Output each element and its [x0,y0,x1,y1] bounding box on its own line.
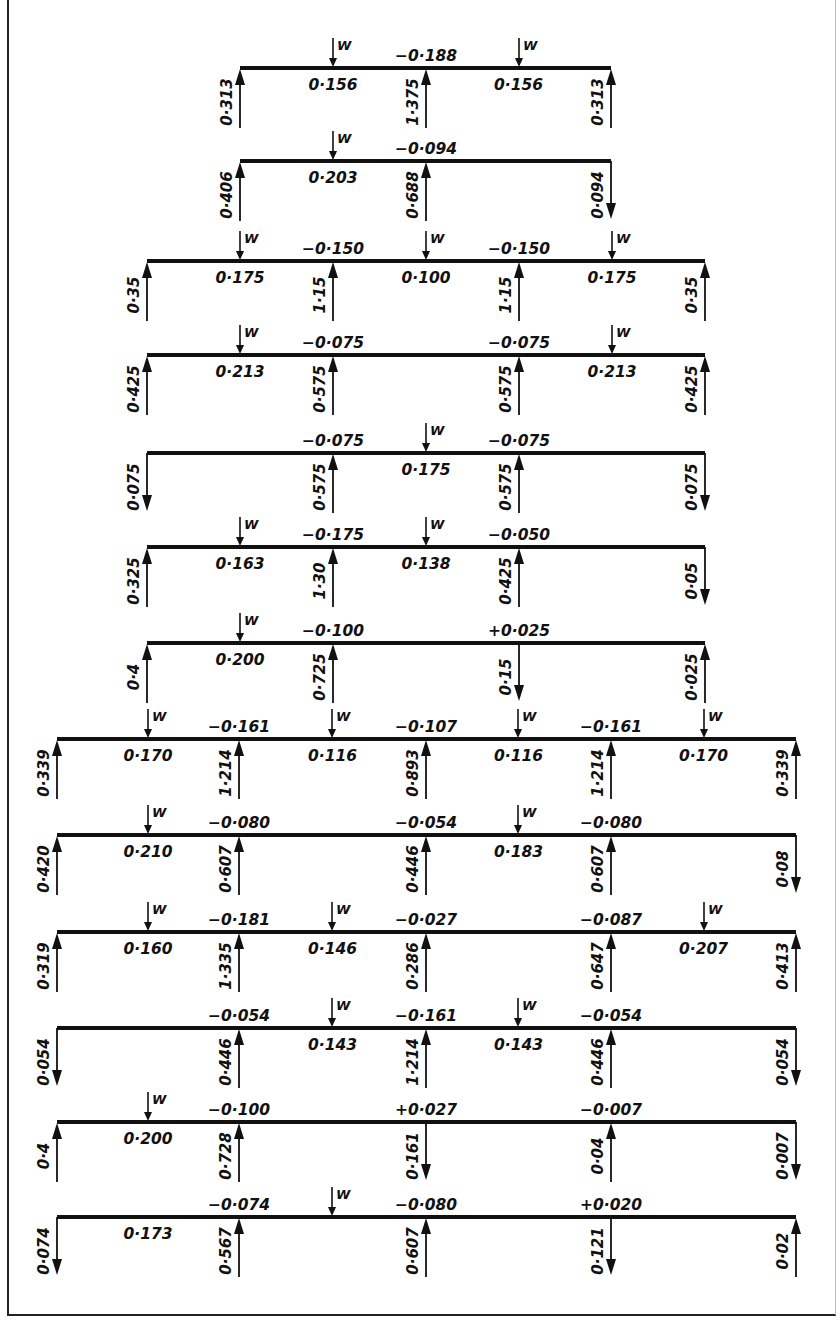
beam-case: WWW−0·150−0·1500·1750·1000·1750·351·151·… [125,231,710,321]
reaction-label: 0·35 [125,276,143,313]
reaction-label: 0·446 [404,845,422,892]
span-moment-label: 0·210 [123,843,172,861]
load-arrow-icon: W [328,998,351,1027]
load-arrow-icon: W [236,517,259,546]
load-arrow-icon: W [515,38,538,67]
reaction-up-arrow-icon: 1·15 [497,262,524,321]
reaction-down-arrow-icon: 0·075 [683,453,710,511]
reaction-label: 0·607 [404,1227,422,1275]
load-label: W [152,709,167,724]
support-moment-label: −0·050 [488,526,550,544]
support-moment-label: −0·080 [208,814,270,832]
reaction-up-arrow-icon: 0·425 [497,548,524,607]
reaction-up-arrow-icon: 1·214 [217,740,244,799]
span-moment-label: 0·175 [215,269,264,287]
support-moment-label: −0·100 [208,1101,270,1119]
load-label: W [244,231,259,246]
reaction-up-arrow-icon: 1·30 [311,548,338,607]
reaction-up-arrow-icon: 0·420 [35,836,62,895]
span-moment-label: 0·183 [494,843,543,861]
support-moment-label: −0·175 [302,526,364,544]
span-moment-label: 0·207 [679,940,728,958]
reaction-up-arrow-icon: 1·335 [217,933,244,992]
support-moment-label: −0·027 [395,911,457,929]
load-label: W [522,805,537,820]
reaction-down-arrow-icon: 0·075 [125,453,152,511]
load-label: W [336,998,351,1013]
span-moment-label: 0·213 [587,363,636,381]
reaction-label: 0·4 [125,664,143,691]
reaction-label: 0·121 [589,1227,607,1274]
reaction-label: 0·425 [683,365,701,412]
support-moment-label: −0·054 [395,814,457,832]
load-arrow-icon: W [144,805,167,834]
load-arrow-icon: W [514,709,537,738]
support-moment-label: +0·027 [395,1101,457,1119]
load-arrow-icon: W [514,998,537,1027]
reaction-label: 0·339 [774,749,792,796]
span-moment-label: 0·173 [123,1225,172,1243]
reaction-down-arrow-icon: 0·08 [774,835,801,893]
load-label: W [152,805,167,820]
reaction-label: 0·575 [311,365,329,412]
reaction-up-arrow-icon: 0·893 [404,740,431,799]
load-arrow-icon: W [328,902,351,931]
reaction-up-arrow-icon: 0·286 [404,933,431,992]
load-label: W [244,613,259,628]
reaction-up-arrow-icon: 0·728 [217,1123,244,1182]
beam-case: W−0·100+0·027−0·0070·2000·40·7280·1610·0… [35,1092,801,1182]
reaction-label: 0·161 [404,1132,422,1179]
load-arrow-icon: W [422,517,445,546]
beam-case: WW−0·075−0·0750·2130·2130·4250·5750·5750… [125,325,710,415]
support-moment-label: +0·020 [580,1196,642,1214]
load-label: W [430,517,445,532]
reaction-label: 1·30 [311,562,329,599]
reaction-up-arrow-icon: 0·35 [125,262,152,321]
reaction-up-arrow-icon: 1·375 [404,69,431,128]
beam-case: WW−0·054−0·161−0·0540·1430·1430·0540·446… [35,998,801,1088]
reaction-up-arrow-icon: 0·607 [589,836,616,895]
span-moment-label: 0·170 [123,747,172,765]
support-moment-label: −0·161 [208,718,270,736]
span-moment-label: 0·213 [215,363,264,381]
load-arrow-icon: W [700,709,723,738]
reaction-label: 0·08 [774,850,792,887]
beam-case: WWWW−0·161−0·107−0·1610·1700·1160·1160·1… [35,709,801,799]
reaction-label: 0·4 [35,1143,53,1170]
reaction-up-arrow-icon: 0·446 [404,836,431,895]
beam-case: W−0·074−0·080+0·0200·1730·0740·5670·6070… [35,1187,801,1277]
reaction-label: 0·286 [404,942,422,989]
reaction-label: 0·446 [589,1038,607,1085]
span-moment-label: 0·100 [401,269,450,287]
load-label: W [708,709,723,724]
support-moment-label: −0·161 [580,718,642,736]
reaction-down-arrow-icon: 0·094 [589,161,616,219]
span-moment-label: 0·116 [494,747,543,765]
reaction-label: 1·214 [404,1038,422,1085]
load-arrow-icon: W [328,709,351,738]
reaction-up-arrow-icon: 0·413 [774,933,801,992]
load-arrow-icon: W [144,902,167,931]
reaction-label: 0·075 [683,463,701,510]
support-moment-label: −0·075 [302,334,364,352]
reaction-label: 0·075 [125,463,143,510]
load-label: W [616,231,631,246]
reaction-down-arrow-icon: 0·05 [683,547,710,605]
reaction-label: 0·413 [774,942,792,989]
load-label: W [152,1092,167,1107]
span-moment-label: 0·175 [401,461,450,479]
beam-case: W−0·100+0·0250·2000·40·7250·150·025 [125,613,710,703]
load-label: W [244,325,259,340]
support-moment-label: −0·075 [488,432,550,450]
reaction-label: 1·15 [497,276,515,313]
reaction-up-arrow-icon: 0·025 [683,644,710,703]
support-moment-label: −0·080 [395,1196,457,1214]
support-moment-label: −0·054 [208,1007,270,1025]
support-moment-label: −0·075 [488,334,550,352]
reaction-label: 0·094 [589,171,607,218]
support-moment-label: −0·150 [488,240,550,258]
support-moment-label: −0·107 [395,718,457,736]
support-moment-label: −0·181 [208,911,270,929]
reaction-up-arrow-icon: 0·575 [311,454,338,513]
beam-coefficient-diagram: WW−0·1880·1560·1560·3131·3750·313W−0·094… [0,0,840,1330]
